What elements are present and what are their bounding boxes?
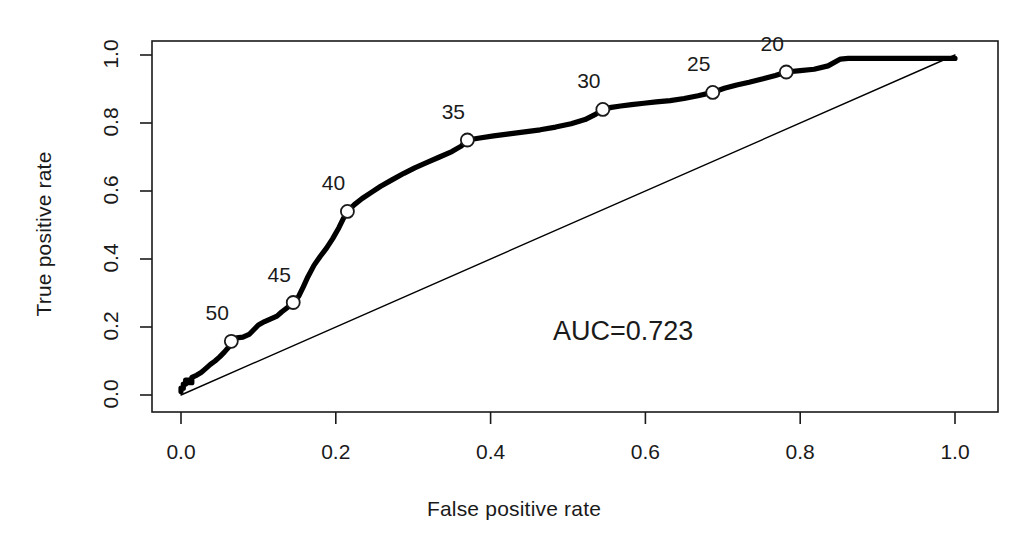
y-tick-label: 0.2 [99,303,123,349]
plot-canvas [0,0,1028,558]
threshold-label: 50 [206,301,229,325]
x-axis-ticks [181,412,955,424]
threshold-label: 25 [687,52,710,76]
x-tick-label: 0.2 [321,440,350,464]
x-tick-label: 0.4 [476,440,505,464]
y-tick-label: 0.6 [99,167,123,213]
threshold-marker [780,66,793,79]
threshold-marker [461,134,474,147]
threshold-marker [225,335,238,348]
threshold-label: 45 [268,263,291,287]
threshold-marker [706,86,719,99]
auc-annotation: AUC=0.723 [553,316,693,347]
threshold-label: 30 [577,69,600,93]
threshold-label: 35 [442,100,465,124]
x-tick-label: 1.0 [940,440,969,464]
y-tick-label: 1.0 [99,31,123,77]
x-axis-title: False positive rate [0,497,1028,521]
y-tick-label: 0.4 [99,235,123,281]
x-tick-label: 0.8 [786,440,815,464]
y-axis-ticks [140,55,152,395]
x-tick-label: 0.0 [166,440,195,464]
y-axis-title: True positive rate [32,124,56,344]
plot-frame-rect [152,41,998,412]
threshold-marker [596,103,609,116]
threshold-markers [225,66,793,348]
threshold-label: 20 [761,32,784,56]
threshold-marker [341,205,354,218]
plot-frame [152,41,998,412]
y-tick-label: 0.0 [99,371,123,417]
threshold-label: 40 [322,171,345,195]
x-tick-label: 0.6 [631,440,660,464]
roc-curve-figure: False positive rate True positive rate A… [0,0,1028,558]
threshold-marker [287,296,300,309]
y-tick-label: 0.8 [99,99,123,145]
